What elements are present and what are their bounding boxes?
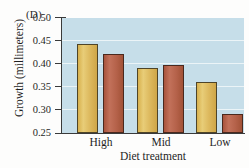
y-tick-label-0.35: 0.35 [0,82,51,93]
bar-high-series-1 [77,44,98,133]
x-axis-title: Diet treatment [62,150,244,162]
y-tick-label-0.40: 0.40 [0,59,51,70]
y-axis-top-cap [61,17,66,18]
x-category-label-high: High [76,136,126,148]
bar-high-series-2 [103,54,124,133]
y-tick-mark-0.25 [55,133,61,134]
y-tick-mark-0.35 [55,86,61,87]
y-axis-line [61,17,62,134]
y-tick-label-0.50: 0.50 [0,13,51,24]
y-tick-mark-0.50 [55,17,61,18]
y-tick-label-0.45: 0.45 [0,36,51,47]
y-tick-label-0.30: 0.30 [0,105,51,116]
x-axis-line [61,133,245,134]
x-category-label-low: Low [195,136,245,148]
bar-mid-series-1 [137,68,158,133]
y-tick-mark-0.40 [55,63,61,64]
bar-low-series-2 [222,114,243,133]
bar-mid-series-2 [163,65,184,133]
y-tick-label-0.25: 0.25 [0,128,51,139]
y-tick-mark-0.30 [55,109,61,110]
gridline-0.45 [62,40,244,41]
y-tick-mark-0.45 [55,40,61,41]
x-category-label-mid: Mid [136,136,186,148]
bar-low-series-1 [196,82,217,133]
plot-area [62,18,244,133]
figure-panel-d: (D) Growth (millimeters) 0.50 0.45 0.40 … [0,0,249,168]
